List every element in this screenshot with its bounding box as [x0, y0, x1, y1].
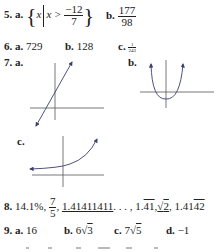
problem-9d: d. −1	[166, 224, 189, 236]
problem-9: 9. a. 16	[4, 224, 37, 236]
list-item: 14.1%,	[15, 200, 46, 212]
list-item: 1.41	[135, 200, 154, 212]
problem-9c: c. 7√5	[114, 224, 141, 236]
cropped-next-line	[24, 247, 174, 252]
part-label: a.	[15, 224, 23, 236]
square-root: √3	[81, 224, 93, 236]
problem-number: 8.	[4, 200, 12, 212]
square-root: √5	[130, 224, 142, 236]
graph-a-linear	[30, 62, 104, 126]
problem-number: 9.	[4, 224, 12, 236]
part-label: d.	[166, 224, 175, 236]
graph-b-parabola	[140, 60, 214, 108]
answer-value: 16	[26, 224, 37, 236]
part-label: c.	[114, 224, 122, 236]
graph-c-exponential	[30, 136, 104, 187]
part-label: b.	[64, 224, 73, 236]
list-item: 1.4142	[174, 200, 204, 212]
problem-9b: b. 6√3	[64, 224, 93, 236]
list-item: √2	[157, 200, 169, 212]
list-item: 1.41411411	[62, 200, 113, 212]
answer-value: −1	[178, 224, 190, 236]
problem-8: 8. 14.1%, 75, 1.41411411. . . , 1.41,√2,…	[4, 196, 205, 219]
